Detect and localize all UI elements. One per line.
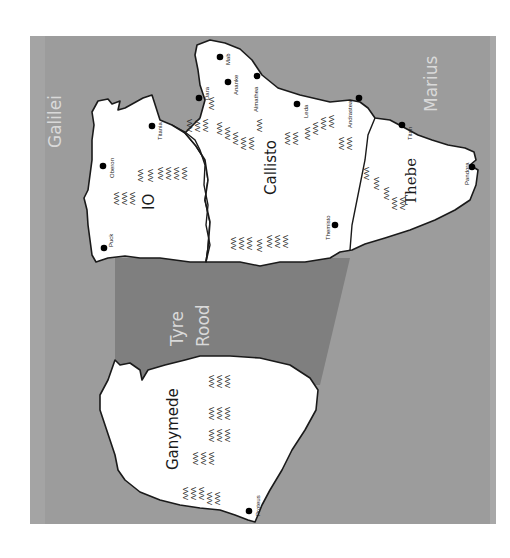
- mountain-icon: ΛΛΛ: [346, 137, 353, 150]
- town-label: Mab: [225, 53, 231, 65]
- region-label-ganymede: Ganymede: [164, 388, 182, 470]
- mountain-icon: ΛΛΛ: [208, 375, 215, 388]
- mountain-icon: ΛΛΛ: [194, 119, 201, 132]
- mountain-icon: ΛΛΛ: [284, 132, 291, 145]
- mountain-icon: ΛΛΛ: [274, 235, 281, 248]
- mountain-icon: ΛΛΛ: [129, 192, 136, 205]
- mountain-icon: ΛΛΛ: [200, 452, 207, 465]
- mountain-icon: ΛΛΛ: [137, 169, 144, 182]
- town-marker-icon: [100, 163, 107, 170]
- mountain-icon: ΛΛΛ: [181, 167, 188, 180]
- mountain-icon: ΛΛΛ: [224, 407, 231, 420]
- mountain-icon: ΛΛΛ: [173, 167, 180, 180]
- mountain-icon: ΛΛΛ: [230, 237, 237, 250]
- town-marker-icon: [217, 54, 224, 61]
- mountain-icon: ΛΛΛ: [202, 119, 209, 132]
- town-marker-icon: [101, 245, 108, 252]
- mountain-icon: ΛΛΛ: [292, 132, 299, 145]
- mountain-icon: ΛΛΛ: [121, 192, 128, 205]
- mountain-icon: ΛΛΛ: [208, 407, 215, 420]
- mountain-icon: ΛΛΛ: [157, 167, 164, 180]
- mountain-icon: ΛΛΛ: [256, 119, 263, 132]
- mountain-icon: ΛΛΛ: [328, 115, 335, 128]
- mountain-icon: ΛΛΛ: [266, 235, 273, 248]
- town-marker-icon: [294, 101, 301, 108]
- town-marker-icon: [399, 122, 406, 129]
- mountain-icon: ΛΛΛ: [216, 122, 223, 135]
- mountain-icon: ΛΛΛ: [391, 197, 398, 210]
- mountain-icon: ΛΛΛ: [113, 192, 120, 205]
- town-marker-icon: [196, 95, 203, 102]
- mountain-icon: ΛΛΛ: [224, 127, 231, 140]
- mountain-icon: ΛΛΛ: [216, 375, 223, 388]
- town-marker-icon: [332, 222, 339, 229]
- mountain-icon: ΛΛΛ: [165, 167, 172, 180]
- mountain-icon: ΛΛΛ: [192, 452, 199, 465]
- mountain-icon: ΛΛΛ: [216, 429, 223, 442]
- town-label: Pandora: [464, 162, 470, 185]
- mountain-icon: ΛΛΛ: [182, 487, 189, 500]
- town-label: Puck: [108, 233, 114, 247]
- mountain-icon: ΛΛΛ: [246, 237, 253, 250]
- town-marker-icon: [225, 79, 232, 86]
- mountain-icon: ΛΛΛ: [248, 137, 255, 150]
- town-label: Oberon: [109, 158, 115, 178]
- mountain-icon: ΛΛΛ: [282, 235, 289, 248]
- mountain-icon: ΛΛΛ: [147, 169, 154, 182]
- mountain-icon: ΛΛΛ: [363, 167, 370, 180]
- town-label: Proteus: [255, 495, 261, 516]
- mountain-icon: ΛΛΛ: [224, 429, 231, 442]
- town-marker-icon: [149, 123, 156, 130]
- mountain-icon: ΛΛΛ: [383, 187, 390, 200]
- mountain-icon: ΛΛΛ: [206, 492, 213, 505]
- mountain-icon: ΛΛΛ: [304, 127, 311, 140]
- mountain-icon: ΛΛΛ: [320, 117, 327, 130]
- sea-light-band: [30, 36, 45, 524]
- mountain-icon: ΛΛΛ: [232, 132, 239, 145]
- mountain-icon: ΛΛΛ: [238, 237, 245, 250]
- mountain-icon: ΛΛΛ: [240, 137, 247, 150]
- town-label: Titan: [407, 127, 413, 140]
- mountain-icon: ΛΛΛ: [186, 119, 193, 132]
- town-label: Andrastea: [347, 100, 353, 128]
- region-label-io: IO: [140, 194, 158, 210]
- town-marker-icon: [356, 95, 363, 102]
- sea-label-road: Rood: [193, 304, 213, 347]
- mountain-icon: ΛΛΛ: [338, 137, 345, 150]
- town-label: Ananke: [233, 74, 239, 95]
- town-marker-icon: [254, 73, 261, 80]
- sea-label-galilei: Galilei: [45, 95, 65, 148]
- mountain-icon: ΛΛΛ: [216, 407, 223, 420]
- town-label: Titania: [157, 122, 163, 140]
- mountain-icon: ΛΛΛ: [399, 197, 406, 210]
- mountain-icon: ΛΛΛ: [208, 452, 215, 465]
- town-label: Leda: [303, 104, 309, 118]
- town-label: Almathea: [253, 86, 259, 112]
- sea-label-marius: Marius: [421, 55, 441, 112]
- sea-light-band-right: [490, 36, 496, 524]
- mountain-icon: ΛΛΛ: [214, 492, 221, 505]
- mountain-icon: ΛΛΛ: [208, 429, 215, 442]
- region-label-callisto: Callisto: [262, 140, 280, 195]
- map-canvas: Galilei Marius Tyre Rood IO Callisto The…: [0, 0, 510, 558]
- mountain-icon: ΛΛΛ: [373, 177, 380, 190]
- mountain-icon: ΛΛΛ: [224, 375, 231, 388]
- sea-label-tyre: Tyre: [167, 311, 187, 347]
- mountain-icon: ΛΛΛ: [190, 487, 197, 500]
- town-label: Themisto: [325, 215, 331, 240]
- mountain-icon: ΛΛΛ: [198, 487, 205, 500]
- mountain-icon: ΛΛΛ: [312, 122, 319, 135]
- mountain-icon: ΛΛΛ: [256, 239, 263, 252]
- mountain-icon: ΛΛΛ: [208, 97, 215, 110]
- town-marker-icon: [246, 508, 253, 515]
